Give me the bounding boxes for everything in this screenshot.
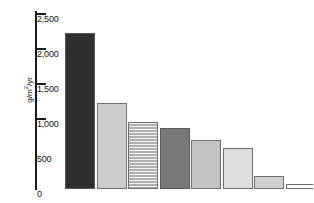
bar [128,122,158,189]
bar [191,140,221,189]
plot-area [0,0,313,203]
bar [254,176,284,189]
bar-hatch-pattern [129,123,157,188]
bar [286,184,314,189]
bar [223,148,253,189]
bar-chart: g/m2/yr 2,5002,0001,5001,0005000 [0,0,313,203]
bar [97,103,127,189]
bar [65,33,95,189]
bar [160,128,190,189]
